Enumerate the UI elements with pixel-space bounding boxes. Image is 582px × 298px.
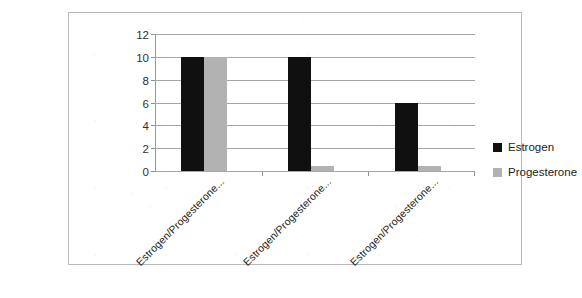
y-axis-tick-mark	[151, 171, 155, 172]
bar-estrogen-1	[288, 57, 311, 171]
legend-item-estrogen[interactable]: Estrogen	[493, 141, 582, 153]
y-axis-tick-mark	[151, 125, 155, 126]
x-axis-category-label: Estrogen/Progesterone...	[241, 175, 334, 268]
bar-progesterone-1	[311, 166, 334, 171]
y-axis-tick-label: 12	[136, 29, 149, 41]
legend-label: Estrogen	[508, 141, 554, 153]
bar-estrogen-0	[181, 57, 204, 171]
bar-progesterone-2	[418, 166, 441, 171]
y-axis-tick-label: 4	[143, 120, 149, 132]
bar-progesterone-0	[204, 57, 227, 171]
x-axis-category-label: Estrogen/Progesterone...	[347, 175, 440, 268]
x-axis-category-tick	[368, 172, 369, 176]
bar-estrogen-2	[395, 103, 418, 172]
legend-swatch-icon	[493, 168, 502, 177]
gridline	[155, 34, 475, 35]
x-axis-category-tick	[262, 172, 263, 176]
y-axis-tick-labels: 024681012	[121, 35, 149, 172]
y-axis-tick-label: 0	[143, 166, 149, 178]
y-axis-tick-label: 10	[136, 52, 149, 64]
y-axis-tick-label: 8	[143, 75, 149, 87]
y-axis-tick-mark	[151, 34, 155, 35]
y-axis-tick-label: 2	[143, 143, 149, 155]
legend-swatch-icon	[493, 143, 502, 152]
legend-item-progesterone[interactable]: Progesterone	[493, 166, 582, 178]
legend-label: Progesterone	[508, 166, 577, 178]
plot-area	[155, 35, 475, 172]
y-axis-tick-mark	[151, 80, 155, 81]
x-axis-end-tick	[474, 172, 475, 176]
gridline	[155, 171, 475, 172]
y-axis-tick-mark	[151, 148, 155, 149]
y-axis-line	[155, 35, 156, 172]
y-axis-tick-mark	[151, 57, 155, 58]
x-axis-category-label: Estrogen/Progesterone...	[134, 175, 227, 268]
y-axis-tick-mark	[151, 103, 155, 104]
chart-frame: 024681012 Estrogen/Progesterone...Estrog…	[68, 12, 522, 265]
chart-legend: EstrogenProgesterone	[493, 141, 582, 191]
y-axis-tick-label: 6	[143, 98, 149, 110]
